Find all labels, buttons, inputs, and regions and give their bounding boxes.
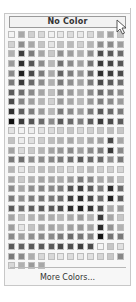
color-swatch[interactable] bbox=[107, 243, 114, 250]
color-swatch[interactable] bbox=[8, 89, 15, 96]
color-swatch[interactable] bbox=[48, 108, 55, 115]
color-swatch[interactable] bbox=[97, 50, 104, 57]
color-swatch[interactable] bbox=[117, 50, 124, 57]
color-swatch[interactable] bbox=[48, 253, 55, 260]
color-swatch[interactable] bbox=[117, 137, 124, 144]
color-swatch[interactable] bbox=[77, 224, 84, 231]
color-swatch[interactable] bbox=[18, 31, 25, 38]
color-swatch[interactable] bbox=[18, 185, 25, 192]
color-swatch[interactable] bbox=[18, 108, 25, 115]
color-swatch[interactable] bbox=[67, 233, 74, 240]
color-swatch[interactable] bbox=[67, 50, 74, 57]
color-swatch[interactable] bbox=[87, 147, 94, 154]
color-swatch[interactable] bbox=[97, 224, 104, 231]
color-swatch[interactable] bbox=[97, 147, 104, 154]
color-swatch[interactable] bbox=[97, 176, 104, 183]
color-swatch[interactable] bbox=[77, 205, 84, 212]
color-swatch[interactable] bbox=[117, 89, 124, 96]
color-swatch[interactable] bbox=[48, 60, 55, 67]
color-swatch[interactable] bbox=[18, 233, 25, 240]
color-swatch[interactable] bbox=[87, 98, 94, 105]
color-swatch[interactable] bbox=[38, 98, 45, 105]
color-swatch[interactable] bbox=[18, 137, 25, 144]
color-swatch[interactable] bbox=[18, 79, 25, 86]
color-swatch[interactable] bbox=[28, 195, 35, 202]
color-swatch[interactable] bbox=[107, 233, 114, 240]
color-swatch[interactable] bbox=[107, 70, 114, 77]
color-swatch[interactable] bbox=[8, 195, 15, 202]
color-swatch[interactable] bbox=[87, 31, 94, 38]
color-swatch[interactable] bbox=[77, 214, 84, 221]
color-swatch[interactable] bbox=[77, 50, 84, 57]
color-swatch[interactable] bbox=[48, 176, 55, 183]
color-swatch[interactable] bbox=[8, 60, 15, 67]
color-swatch[interactable] bbox=[8, 233, 15, 240]
color-swatch[interactable] bbox=[28, 50, 35, 57]
color-swatch[interactable] bbox=[48, 214, 55, 221]
color-swatch[interactable] bbox=[107, 137, 114, 144]
color-swatch[interactable] bbox=[67, 253, 74, 260]
color-swatch[interactable] bbox=[48, 224, 55, 231]
color-swatch[interactable] bbox=[107, 166, 114, 173]
color-swatch[interactable] bbox=[57, 60, 64, 67]
color-swatch[interactable] bbox=[117, 156, 124, 163]
color-swatch[interactable] bbox=[107, 224, 114, 231]
color-swatch[interactable] bbox=[48, 41, 55, 48]
color-swatch[interactable] bbox=[8, 262, 15, 269]
color-swatch[interactable] bbox=[97, 195, 104, 202]
color-swatch[interactable] bbox=[18, 60, 25, 67]
color-swatch[interactable] bbox=[107, 98, 114, 105]
color-swatch[interactable] bbox=[77, 185, 84, 192]
color-swatch[interactable] bbox=[48, 118, 55, 125]
color-swatch[interactable] bbox=[57, 31, 64, 38]
color-swatch[interactable] bbox=[117, 214, 124, 221]
color-swatch[interactable] bbox=[87, 60, 94, 67]
color-swatch[interactable] bbox=[97, 98, 104, 105]
color-swatch[interactable] bbox=[107, 195, 114, 202]
color-swatch[interactable] bbox=[48, 137, 55, 144]
color-swatch[interactable] bbox=[38, 118, 45, 125]
color-swatch[interactable] bbox=[28, 233, 35, 240]
color-swatch[interactable] bbox=[67, 214, 74, 221]
color-swatch[interactable] bbox=[8, 185, 15, 192]
color-swatch[interactable] bbox=[38, 137, 45, 144]
color-swatch[interactable] bbox=[77, 127, 84, 134]
color-swatch[interactable] bbox=[8, 243, 15, 250]
color-swatch[interactable] bbox=[28, 118, 35, 125]
color-swatch[interactable] bbox=[77, 243, 84, 250]
color-swatch[interactable] bbox=[77, 233, 84, 240]
color-swatch[interactable] bbox=[117, 253, 124, 260]
color-swatch[interactable] bbox=[8, 147, 15, 154]
color-swatch[interactable] bbox=[57, 185, 64, 192]
color-swatch[interactable] bbox=[28, 185, 35, 192]
color-swatch[interactable] bbox=[107, 41, 114, 48]
color-swatch[interactable] bbox=[18, 98, 25, 105]
color-swatch[interactable] bbox=[97, 89, 104, 96]
color-swatch[interactable] bbox=[8, 156, 15, 163]
color-swatch[interactable] bbox=[18, 224, 25, 231]
color-swatch[interactable] bbox=[87, 156, 94, 163]
color-swatch[interactable] bbox=[48, 233, 55, 240]
color-swatch[interactable] bbox=[117, 70, 124, 77]
color-swatch[interactable] bbox=[57, 89, 64, 96]
color-swatch[interactable] bbox=[97, 243, 104, 250]
color-swatch[interactable] bbox=[87, 243, 94, 250]
color-swatch[interactable] bbox=[48, 79, 55, 86]
color-swatch[interactable] bbox=[107, 185, 114, 192]
color-swatch[interactable] bbox=[67, 166, 74, 173]
color-swatch[interactable] bbox=[107, 127, 114, 134]
color-swatch[interactable] bbox=[18, 156, 25, 163]
color-swatch[interactable] bbox=[77, 60, 84, 67]
color-swatch[interactable] bbox=[77, 108, 84, 115]
color-swatch[interactable] bbox=[117, 118, 124, 125]
color-swatch[interactable] bbox=[48, 89, 55, 96]
color-swatch[interactable] bbox=[18, 147, 25, 154]
color-swatch[interactable] bbox=[117, 79, 124, 86]
color-swatch[interactable] bbox=[87, 50, 94, 57]
color-swatch[interactable] bbox=[87, 89, 94, 96]
color-swatch[interactable] bbox=[57, 137, 64, 144]
color-swatch[interactable] bbox=[48, 31, 55, 38]
color-swatch[interactable] bbox=[38, 253, 45, 260]
color-swatch[interactable] bbox=[28, 31, 35, 38]
color-swatch[interactable] bbox=[8, 214, 15, 221]
